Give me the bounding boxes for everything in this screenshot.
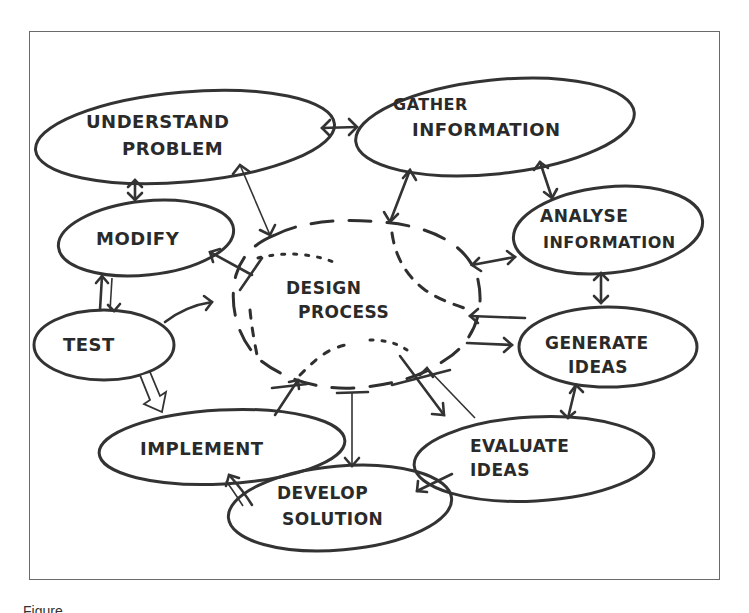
node-gather-information: GATHER INFORMATION bbox=[351, 66, 639, 189]
evaluate-line2: IDEAS bbox=[470, 460, 530, 480]
gather-line1: GATHER bbox=[393, 95, 468, 114]
node-modify: MODIFY bbox=[55, 192, 238, 284]
figure-caption: Figure bbox=[23, 604, 63, 613]
center-label-line2: PROCESS bbox=[298, 302, 389, 322]
develop-line1: DEVELOP bbox=[277, 483, 368, 503]
analyse-line2: INFORMATION bbox=[543, 233, 676, 252]
develop-line2: SOLUTION bbox=[282, 509, 383, 529]
center-label-line1: DESIGN bbox=[286, 278, 361, 298]
design-process-diagram: DESIGN PROCESS UNDERSTAND PROBLEM GATHER… bbox=[0, 0, 749, 613]
evaluate-line1: EVALUATE bbox=[470, 436, 569, 456]
modify-line1: MODIFY bbox=[96, 228, 180, 249]
analyse-line1: ANALYSE bbox=[540, 206, 628, 226]
node-analyse-information: ANALYSE INFORMATION bbox=[509, 177, 707, 282]
node-develop-solution: DEVELOP SOLUTION bbox=[225, 456, 455, 559]
gather-line2: INFORMATION bbox=[412, 119, 561, 140]
test-line1: TEST bbox=[63, 334, 115, 355]
node-test: TEST bbox=[34, 310, 174, 380]
implement-line1: IMPLEMENT bbox=[140, 438, 264, 459]
understand-line2: PROBLEM bbox=[122, 138, 223, 159]
node-understand-problem: UNDERSTAND PROBLEM bbox=[32, 79, 339, 195]
understand-line1: UNDERSTAND bbox=[86, 111, 230, 132]
generate-line2: IDEAS bbox=[568, 357, 628, 377]
generate-line1: GENERATE bbox=[545, 333, 649, 353]
node-implement: IMPLEMENT bbox=[97, 404, 347, 491]
node-generate-ideas: GENERATE IDEAS bbox=[519, 307, 697, 387]
